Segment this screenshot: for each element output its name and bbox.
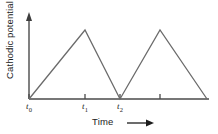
waveform-figure: Cathodic potential Time t0 t1 t2 — [0, 0, 218, 134]
up-arrow-icon — [26, 12, 32, 21]
waveform-trace — [29, 30, 207, 99]
x-tick-label-t2: t2 — [117, 101, 123, 113]
x-tick-label-t1: t1 — [82, 101, 88, 113]
tick-sub-t1: 1 — [85, 106, 88, 113]
x-axis-label: Time — [92, 116, 114, 127]
right-arrow-icon — [127, 117, 155, 129]
chart-canvas — [0, 0, 218, 134]
tick-sub-t0: 0 — [29, 106, 32, 113]
x-tick-label-t0: t0 — [26, 101, 32, 113]
y-axis-label: Cathodic potential — [3, 0, 17, 83]
tick-sub-t2: 2 — [120, 106, 123, 113]
